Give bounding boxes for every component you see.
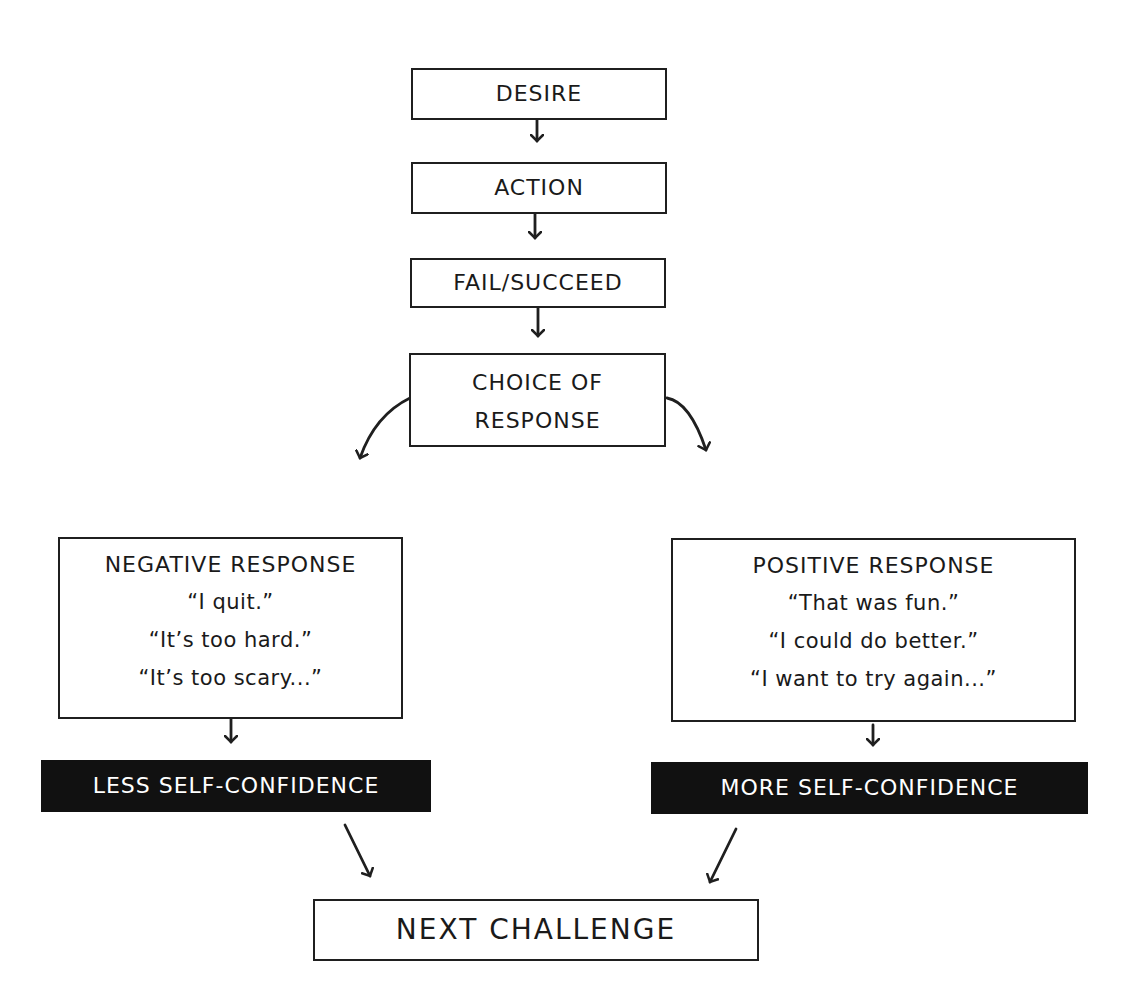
arrow-less-next [345, 825, 370, 876]
choice-of-response-box: CHOICE OF RESPONSE [409, 353, 666, 447]
choice-label-line1: CHOICE OF [472, 362, 603, 404]
arrow-choice-positive [667, 398, 706, 450]
more-self-confidence-label: MORE SELF-CONFIDENCE [720, 775, 1018, 801]
negative-quote: “It’s too hard.” [149, 621, 313, 659]
less-self-confidence-box: LESS SELF-CONFIDENCE [41, 760, 431, 812]
arrow-more-next [710, 829, 736, 882]
action-label: ACTION [494, 175, 584, 201]
negative-response-title: NEGATIVE RESPONSE [105, 547, 357, 583]
next-challenge-box: NEXT CHALLENGE [313, 899, 759, 961]
next-challenge-label: NEXT CHALLENGE [396, 913, 676, 947]
fail-succeed-box: FAIL/SUCCEED [410, 258, 666, 308]
less-self-confidence-label: LESS SELF-CONFIDENCE [93, 773, 380, 799]
arrow-choice-negative [360, 398, 410, 458]
connector-arrows [0, 0, 1143, 1007]
negative-response-box: NEGATIVE RESPONSE “I quit.” “It’s too ha… [58, 537, 403, 719]
desire-label: DESIRE [496, 81, 582, 107]
positive-response-box: POSITIVE RESPONSE “That was fun.” “I cou… [671, 538, 1076, 722]
positive-quote: “I could do better.” [768, 622, 978, 660]
desire-box: DESIRE [411, 68, 667, 120]
choice-label-line2: RESPONSE [474, 404, 600, 438]
negative-quote: “I quit.” [187, 583, 274, 621]
positive-response-title: POSITIVE RESPONSE [753, 548, 995, 584]
positive-quote: “That was fun.” [788, 584, 960, 622]
more-self-confidence-box: MORE SELF-CONFIDENCE [651, 762, 1088, 814]
negative-quote: “It’s too scary...” [138, 659, 322, 697]
action-box: ACTION [411, 162, 667, 214]
fail-succeed-label: FAIL/SUCCEED [453, 270, 622, 296]
positive-quote: “I want to try again...” [750, 660, 997, 698]
